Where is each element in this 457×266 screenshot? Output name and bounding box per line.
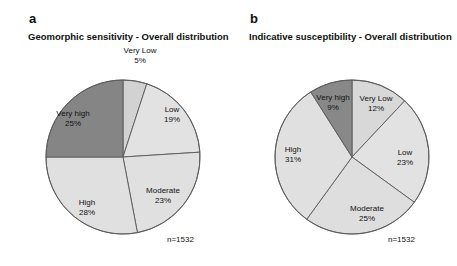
slice-label-very-high-name: Very high [316,93,349,103]
slice-label-moderate: Moderate 25% [350,204,384,224]
panel-indicative-susceptibility: b Indicative susceptibility - Overall di… [228,0,456,266]
slice-label-high-name: High [285,145,301,155]
pie-chart-geomorphic-sensitivity [0,0,228,266]
slice-label-very-low-value: 5% [124,56,157,66]
slice-label-very-high-value: 25% [56,119,89,129]
slice-label-very-low-name: Very Low [124,46,157,56]
sample-size-label-a: n=1532 [167,236,194,244]
slice-label-moderate-name: Moderate [350,204,384,214]
slice-label-low-value: 23% [397,158,413,168]
slice-label-low-name: Low [164,105,180,115]
slice-label-moderate-value: 23% [146,196,180,206]
slice-label-high: High 31% [285,145,301,165]
pie-chart-indicative-susceptibility [228,0,456,266]
slice-label-moderate: Moderate 23% [146,186,180,206]
slice-label-very-low-name: Very Low [360,94,393,104]
sample-size-label-b: n=1532 [388,236,415,244]
slice-label-high-value: 28% [79,208,95,218]
slice-label-low: Low 19% [164,105,180,125]
slice-label-low: Low 23% [397,148,413,168]
slice-label-moderate-name: Moderate [146,186,180,196]
slice-label-low-value: 19% [164,115,180,125]
slice-label-very-low: Very Low 5% [124,46,157,66]
slice-label-high-value: 31% [285,155,301,165]
slice-label-very-low: Very Low 12% [360,94,393,114]
slice-label-very-high: Very high 25% [56,109,89,129]
slice-label-low-name: Low [397,148,413,158]
slice-label-very-high-name: Very high [56,109,89,119]
slice-label-very-high: Very high 9% [316,93,349,113]
slice-label-high: High 28% [79,198,95,218]
slice-label-moderate-value: 25% [350,214,384,224]
panel-geomorphic-sensitivity: a Geomorphic sensitivity - Overall distr… [0,0,228,266]
slice-label-very-low-value: 12% [360,104,393,114]
slice-label-very-high-value: 9% [316,103,349,113]
slice-label-high-name: High [79,198,95,208]
pie-slice-high [46,157,137,234]
